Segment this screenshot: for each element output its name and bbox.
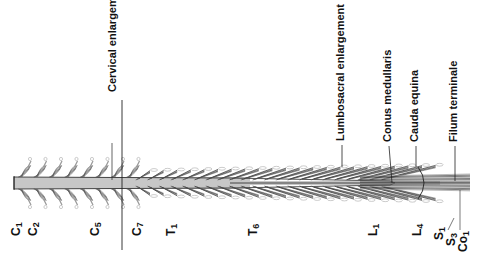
segment-t6-label: T6 xyxy=(246,224,261,236)
filum-label: Filum terminale xyxy=(447,61,459,142)
segment-c1-label: C1 xyxy=(9,222,24,236)
segment-letter: T xyxy=(164,229,178,236)
segment-c7-label: C7 xyxy=(130,222,145,236)
segment-c5-label: C5 xyxy=(88,222,103,236)
segment-number: 2 xyxy=(31,222,41,227)
segment-c2-label: C2 xyxy=(26,222,41,236)
cauda-label: Cauda equina xyxy=(408,70,420,142)
segment-number: 4 xyxy=(415,224,425,229)
segment-number: 5 xyxy=(93,222,103,227)
segment-number: 7 xyxy=(135,222,145,227)
segment-co1-label: Co1 xyxy=(456,231,471,252)
segment-t1-label: T1 xyxy=(164,224,179,236)
segment-letter: L xyxy=(366,229,380,236)
segment-number: 6 xyxy=(251,224,261,229)
cervical-label: Cervical enlargement xyxy=(106,0,118,92)
segment-number: 1 xyxy=(437,227,447,232)
segment-l1-label: L1 xyxy=(366,224,381,236)
segment-letter: Co xyxy=(456,236,470,252)
spinal-cord-diagram: Cervical enlargementLumbosacral enlargem… xyxy=(0,0,485,256)
segment-letter: C xyxy=(9,227,23,236)
segment-number: 1 xyxy=(371,224,381,229)
segment-letter: T xyxy=(246,229,260,236)
segment-letter: C xyxy=(26,227,40,236)
segment-letter: C xyxy=(88,227,102,236)
segment-l4-label: L4 xyxy=(410,224,425,236)
segment-number: 1 xyxy=(461,231,471,236)
segment-number: 1 xyxy=(14,222,24,227)
conus-label: Conus medullaris xyxy=(381,50,393,142)
segment-letter: L xyxy=(410,229,424,236)
lumbosacral-label: Lumbosacral enlargement xyxy=(334,4,346,141)
segment-letter: C xyxy=(130,227,144,236)
segment-number: 1 xyxy=(169,224,179,229)
